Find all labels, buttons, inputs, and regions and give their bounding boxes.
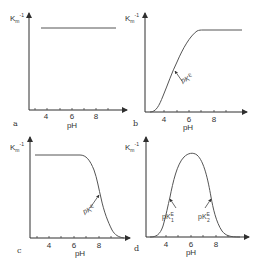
tick-label: 4 (47, 241, 52, 250)
panel-b: Km-1 4 6 8 pH b pKE (125, 12, 247, 132)
y-axis-label: Km-1 (10, 141, 24, 153)
tick-label: 8 (97, 241, 102, 250)
tick-label: 4 (44, 112, 49, 121)
panel-d: Km-1 4 6 8 pH d pKE1 pKE2 (125, 137, 249, 257)
data-curve (150, 153, 240, 237)
x-axis-label: pH (186, 248, 196, 257)
tick-label: 8 (212, 115, 217, 124)
tick-label: 8 (94, 112, 99, 121)
panel-label: d (134, 244, 139, 253)
pK2-annotation: pKE2 (198, 211, 211, 223)
data-curve (35, 155, 124, 238)
x-axis-label: pH (183, 123, 193, 132)
panel-label: b (133, 119, 138, 128)
figure: Km-1 4 6 8 pH a Km-1 4 6 8 pH b pKE (0, 0, 263, 266)
pK-annotation: pKE (81, 202, 96, 216)
y-axis-label: Km-1 (125, 12, 139, 24)
y-axis-label: Km-1 (10, 12, 24, 24)
y-axis-label: Km-1 (125, 141, 139, 153)
panel-a: Km-1 4 6 8 pH a (10, 12, 127, 130)
panel-label: a (13, 119, 18, 128)
panel-c: Km-1 4 6 8 pH c pKE (10, 137, 130, 258)
data-curve (150, 30, 242, 112)
pK-annotation: pKE (179, 71, 194, 85)
tick-label: 4 (162, 115, 167, 124)
panel-label: c (17, 246, 22, 255)
x-axis-label: pH (67, 121, 77, 130)
x-axis-label: pH (75, 249, 85, 258)
tick-label: 8 (214, 240, 219, 249)
tick-label: 6 (70, 112, 75, 121)
tick-label: 4 (164, 240, 169, 249)
